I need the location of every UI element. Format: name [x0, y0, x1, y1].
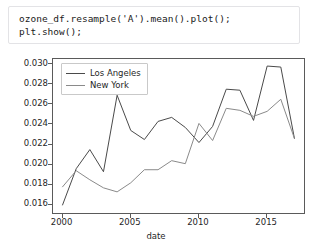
- plot-area: Los AngelesNew York: [52, 58, 305, 214]
- legend-label: Los Angeles: [90, 68, 141, 78]
- y-tick-label: 0.024: [4, 119, 48, 128]
- legend-item-1: New York: [66, 79, 141, 91]
- series-line-1: [63, 99, 295, 192]
- legend-label: New York: [90, 80, 129, 90]
- x-tick-mark: [62, 214, 63, 218]
- x-axis-label: date: [0, 231, 312, 241]
- matplotlib-figure: 0.0160.0180.0200.0220.0240.0260.0280.030…: [0, 50, 312, 251]
- code-cell-text: ozone_df.resample('A').mean().plot(); pl…: [19, 13, 299, 38]
- y-tick-label: 0.026: [4, 99, 48, 108]
- y-tick-label: 0.028: [4, 79, 48, 88]
- legend-item-0: Los Angeles: [66, 67, 141, 79]
- y-tick-label: 0.030: [4, 59, 48, 68]
- x-tick-label: 2000: [42, 218, 82, 227]
- code-cell[interactable]: ozone_df.resample('A').mean().plot(); pl…: [8, 6, 300, 44]
- legend-swatch-icon: [66, 73, 85, 74]
- x-tick-mark: [266, 214, 267, 218]
- x-tick-label: 2015: [246, 218, 286, 227]
- chart-legend: Los AngelesNew York: [61, 63, 148, 95]
- legend-swatch-icon: [66, 85, 85, 86]
- y-tick-label: 0.018: [4, 179, 48, 188]
- x-tick-mark: [130, 214, 131, 218]
- x-tick-mark: [198, 214, 199, 218]
- x-tick-label: 2005: [110, 218, 150, 227]
- y-tick-label: 0.016: [4, 199, 48, 208]
- y-tick-label: 0.020: [4, 159, 48, 168]
- x-tick-label: 2010: [178, 218, 218, 227]
- y-tick-label: 0.022: [4, 139, 48, 148]
